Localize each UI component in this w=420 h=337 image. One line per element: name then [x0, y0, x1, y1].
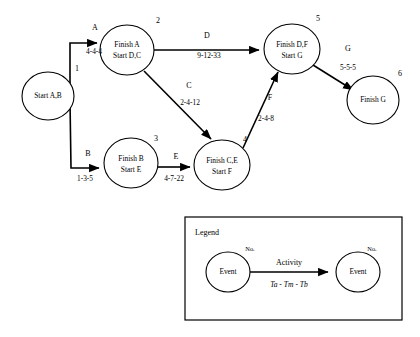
- legend-event-left-label: Event: [219, 267, 237, 276]
- node-5-number: 5: [316, 14, 320, 23]
- node-6-label-line1: Finish G: [360, 95, 386, 104]
- node-4-finish-ce-start-f[interactable]: Finish C,E Start F 4: [194, 135, 250, 190]
- legend-time-label: Ta - Tm - Tb: [270, 280, 308, 289]
- node-5-ellipse: [264, 24, 320, 74]
- activity-label-d: D 9-12-33: [197, 31, 221, 60]
- node-4-number: 4: [243, 135, 247, 144]
- edge-activity-f: [243, 72, 278, 148]
- node-2-number: 2: [156, 16, 160, 25]
- activity-b-name: B: [85, 149, 90, 158]
- node-6-number: 6: [398, 69, 402, 78]
- activity-d-name: D: [204, 31, 210, 40]
- node-5-label-line2: Start G: [281, 51, 303, 60]
- legend-event-right-label: Event: [349, 267, 367, 276]
- node-4-label-line1: Finish C,E: [206, 156, 238, 165]
- legend-activity-label: Activity: [276, 258, 302, 267]
- node-6-finish-g[interactable]: Finish G 6: [347, 69, 402, 124]
- activity-a-name: A: [92, 23, 98, 32]
- node-3-finish-b-start-e[interactable]: Finish B Start E 3: [104, 134, 158, 188]
- activity-g-name: G: [345, 44, 351, 53]
- node-2-ellipse: [100, 25, 154, 75]
- activity-g-times: 5-5-5: [340, 63, 356, 72]
- node-4-label-line2: Start F: [212, 167, 232, 176]
- activity-label-b: B 1-3-5: [77, 149, 93, 183]
- activity-e-times: 4-7-22: [164, 174, 184, 183]
- activity-label-c: C 2-4-12: [180, 81, 200, 107]
- activity-c-times: 2-4-12: [180, 98, 200, 107]
- legend-number-left-label: No.: [245, 245, 255, 252]
- activity-e-name: E: [174, 152, 179, 161]
- node-2-label-line2: Start D,C: [113, 51, 141, 60]
- node-3-label-line2: Start E: [121, 165, 142, 174]
- node-3-number: 3: [154, 134, 158, 143]
- node-5-finish-df-start-g[interactable]: Finish D,F Start G 5: [264, 14, 320, 74]
- legend-panel: Legend Event No. Event No. Activity Ta -…: [185, 217, 402, 320]
- activity-label-a: A 4-4-4: [86, 23, 102, 56]
- activity-c-name: C: [186, 81, 191, 90]
- activity-f-name: F: [268, 93, 273, 102]
- node-3-label-line1: Finish B: [118, 154, 143, 163]
- activity-a-times: 4-4-4: [86, 47, 102, 56]
- node-2-label-line1: Finish A: [114, 40, 140, 49]
- node-3-ellipse: [104, 138, 158, 188]
- node-1-number: 1: [75, 64, 79, 73]
- legend-title: Legend: [195, 228, 219, 237]
- node-4-ellipse: [194, 140, 250, 190]
- activity-b-times: 1-3-5: [77, 174, 93, 183]
- pert-network-diagram: Start A,B 1 Finish A Start D,C 2 Finish …: [0, 0, 420, 337]
- activity-label-g: G 5-5-5: [340, 44, 356, 72]
- activity-d-times: 9-12-33: [197, 51, 221, 60]
- legend-number-right-label: No.: [367, 245, 377, 252]
- node-2-finish-a-start-dc[interactable]: Finish A Start D,C 2: [100, 16, 160, 75]
- node-5-label-line1: Finish D,F: [276, 40, 308, 49]
- node-1-label-line1: Start A,B: [34, 91, 62, 100]
- activity-f-times: 2-4-8: [258, 114, 274, 123]
- edge-activity-c: [144, 71, 211, 139]
